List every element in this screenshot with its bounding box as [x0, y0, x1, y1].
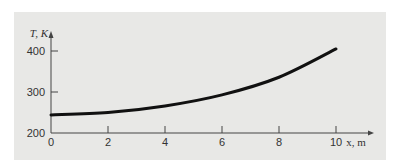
x-tick-label: 2 — [105, 136, 111, 148]
x-axis-arrow-icon — [368, 131, 374, 136]
x-tick-label: 8 — [276, 136, 282, 148]
x-axis-label: x, m — [346, 136, 366, 148]
x-tick-label: 6 — [219, 136, 225, 148]
x-tick-label: 10 — [330, 136, 342, 148]
y-tick-label: 400 — [27, 45, 45, 57]
line-chart: 0246810200300400T, Kx, m — [0, 0, 398, 166]
y-axis-arrow-icon — [49, 31, 54, 38]
y-tick-label: 300 — [27, 86, 45, 98]
x-tick-label: 4 — [162, 136, 168, 148]
series-line-temperature — [51, 49, 336, 115]
y-axis-label: T, K — [30, 27, 49, 39]
y-tick-label: 200 — [27, 127, 45, 139]
x-tick-label: 0 — [48, 136, 54, 148]
